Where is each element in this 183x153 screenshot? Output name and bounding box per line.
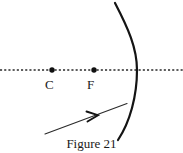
center-of-curvature-dot — [49, 67, 54, 72]
incident-ray-line — [45, 104, 127, 135]
center-of-curvature-label: C — [45, 78, 54, 91]
figure-caption: Figure 21 — [0, 137, 183, 150]
focal-point-dot — [91, 67, 96, 72]
concave-mirror-arc — [115, 3, 137, 140]
focal-point-label: F — [87, 78, 94, 91]
optics-figure: C F Figure 21 — [0, 0, 183, 153]
